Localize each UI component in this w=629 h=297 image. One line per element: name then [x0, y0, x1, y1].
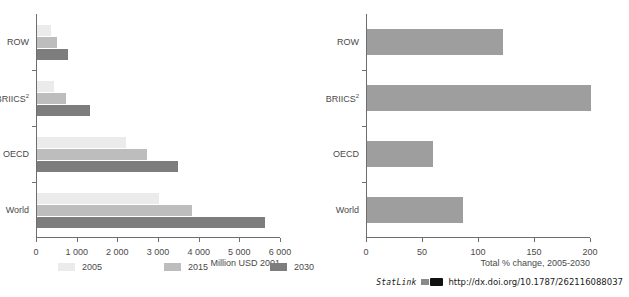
x-tick-label: 100 — [470, 247, 485, 257]
x-tick-label: 4 000 — [187, 247, 210, 257]
x-tick — [199, 238, 200, 242]
x-tick — [422, 238, 423, 242]
x-tick-label: 200 — [582, 247, 597, 257]
bar-world-2030 — [37, 217, 265, 228]
chart-panel-right: 050100150200ROWBRIICS2OECDWorld Total % … — [320, 0, 629, 268]
category-label-briics2: BRIICS2 — [326, 93, 359, 104]
legend-swatch-2005 — [58, 263, 75, 271]
x-tick — [36, 238, 37, 242]
chart-legend: 200520152030 — [58, 262, 314, 272]
x-tick — [478, 238, 479, 242]
category-label-row: ROW — [7, 37, 29, 47]
x-tick — [239, 238, 240, 242]
bar-briics2-2005 — [37, 81, 54, 92]
category-label-world: World — [6, 205, 29, 215]
x-tick-label: 0 — [363, 247, 368, 257]
x-tick-label: 1 000 — [65, 247, 88, 257]
x-tick — [366, 238, 367, 242]
x-tick — [117, 238, 118, 242]
statlink-url[interactable]: http://dx.doi.org/10.1787/262116088037 — [448, 277, 623, 287]
bar-oecd-2005 — [37, 137, 126, 148]
legend-swatch-2015 — [164, 263, 181, 271]
x-tick-label: 2 000 — [106, 247, 129, 257]
y-tick — [362, 182, 366, 183]
bar-briics2-2030 — [37, 105, 90, 116]
y-tick — [32, 70, 36, 71]
x-tick-label: 5 000 — [228, 247, 251, 257]
x-tick — [158, 238, 159, 242]
y-tick — [32, 182, 36, 183]
x-tick-label: 50 — [417, 247, 427, 257]
bar-briics2-2015 — [37, 93, 66, 104]
bar-world-2015 — [37, 205, 192, 216]
x-tick — [77, 238, 78, 242]
category-label-oecd: OECD — [3, 149, 29, 159]
bar-row-2030 — [37, 49, 68, 60]
statlink-label: StatLink — [376, 278, 416, 287]
bar-oecd-2015 — [37, 149, 147, 160]
x-tick-label: 6 000 — [269, 247, 292, 257]
y-tick — [362, 70, 366, 71]
bar-briics2-total-change-2005-2030 — [367, 85, 591, 111]
category-label-oecd: OECD — [333, 149, 359, 159]
figure-root: 01 0002 0003 0004 0005 0006 000ROWBRIICS… — [0, 0, 629, 297]
statlink-barcode-icon — [421, 278, 443, 286]
bar-oecd-2030 — [37, 161, 178, 172]
x-tick — [590, 238, 591, 242]
category-label-row: ROW — [337, 37, 359, 47]
x-tick-label: 150 — [526, 247, 541, 257]
x-axis-title-right: Total % change, 2005-2030 — [320, 258, 590, 268]
legend-item-2005[interactable]: 2005 — [58, 262, 102, 272]
plot-area-right: 050100150200ROWBRIICS2OECDWorld — [366, 14, 590, 238]
plot-area-left: 01 0002 0003 0004 0005 0006 000ROWBRIICS… — [36, 14, 280, 238]
bar-row-2015 — [37, 37, 57, 48]
legend-label-2005: 2005 — [82, 262, 102, 272]
bar-world-2005 — [37, 193, 159, 204]
legend-label-2030: 2030 — [294, 262, 314, 272]
category-label-world: World — [336, 205, 359, 215]
bar-row-2005 — [37, 25, 51, 36]
x-tick — [534, 238, 535, 242]
x-tick-label: 0 — [33, 247, 38, 257]
y-tick — [362, 126, 366, 127]
bar-world-total-change-2005-2030 — [367, 197, 463, 223]
chart-panel-left: 01 0002 0003 0004 0005 0006 000ROWBRIICS… — [0, 0, 320, 268]
x-tick — [280, 238, 281, 242]
y-tick — [32, 126, 36, 127]
legend-item-2030[interactable]: 2030 — [270, 262, 314, 272]
legend-label-2015: 2015 — [188, 262, 208, 272]
statlink-footer: StatLink http://dx.doi.org/10.1787/26211… — [0, 277, 629, 287]
category-label-briics2: BRIICS2 — [0, 93, 29, 104]
bar-oecd-total-change-2005-2030 — [367, 141, 433, 167]
legend-item-2015[interactable]: 2015 — [164, 262, 208, 272]
bar-row-total-change-2005-2030 — [367, 29, 503, 55]
x-tick-label: 3 000 — [147, 247, 170, 257]
legend-swatch-2030 — [270, 263, 287, 271]
